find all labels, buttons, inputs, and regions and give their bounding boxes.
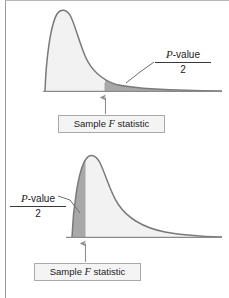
upper-pvalue-annotation: P-value 2 [155, 48, 211, 76]
upper-leader-line [126, 62, 154, 83]
lower-pvalue-denominator: 2 [10, 207, 66, 220]
upper-box-prefix: Sample [74, 118, 109, 129]
lower-box-prefix: Sample [50, 266, 85, 277]
lower-curve-fill [72, 156, 222, 238]
lower-pvalue-numerator: P-value [10, 192, 66, 207]
lower-pvalue-numerator-text: -value [28, 193, 55, 204]
figure-container: P-value 2 Sample F statistic P-value 2 S… [0, 0, 229, 298]
lower-sample-f-statistic-box[interactable]: Sample F statistic [34, 263, 141, 281]
upper-sample-f-statistic-box[interactable]: Sample F statistic [58, 115, 165, 133]
lower-panel [58, 156, 222, 262]
upper-pvalue-p-symbol: P [166, 48, 173, 60]
distribution-curves-svg [0, 0, 229, 298]
lower-box-suffix: statistic [91, 266, 125, 277]
upper-pvalue-numerator: P-value [155, 48, 211, 63]
upper-pvalue-denominator: 2 [155, 63, 211, 76]
lower-pvalue-p-symbol: P [21, 192, 28, 204]
upper-pvalue-numerator-text: -value [173, 49, 200, 60]
upper-box-suffix: statistic [115, 118, 149, 129]
lower-pvalue-annotation: P-value 2 [10, 192, 66, 220]
